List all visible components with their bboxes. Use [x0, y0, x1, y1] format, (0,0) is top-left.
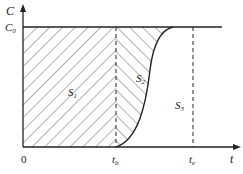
y-axis-label: C — [6, 4, 15, 18]
c0-label: C0 — [5, 21, 16, 35]
origin-label: 0 — [21, 153, 27, 165]
x-axis-label: t — [230, 152, 234, 166]
y-axis-arrow-icon — [20, 4, 26, 12]
s3-label: S3 — [175, 99, 185, 113]
tb-label: tb — [112, 153, 119, 167]
region-s2 — [116, 27, 176, 147]
x-axis-arrow-icon — [233, 144, 241, 150]
te-label: te — [189, 153, 195, 167]
breakthrough-diagram: C C0 0 tb te t S1 S2 S3 — [0, 0, 243, 174]
